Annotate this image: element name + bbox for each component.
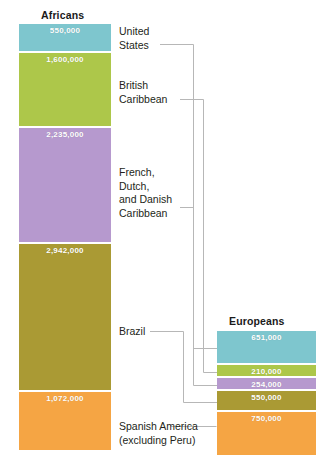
africans-band-french-caribbean: 2,235,000 <box>19 128 111 244</box>
destinations-of-africans-and-europeans-chart: Africans 550,000 1,600,000 2,235,000 2,9… <box>0 0 316 468</box>
africans-band-spanish-america: 1,072,000 <box>19 392 111 450</box>
africans-band-united-states: 550,000 <box>19 24 111 53</box>
africans-value-british-caribbean: 1,600,000 <box>19 55 111 64</box>
connector-french-caribbean <box>180 208 217 386</box>
europeans-value-brazil: 550,000 <box>217 393 316 402</box>
europeans-band-french-caribbean: 254,000 <box>217 378 316 391</box>
label-brazil: Brazil <box>119 325 145 339</box>
europeans-value-french-caribbean: 254,000 <box>217 380 316 389</box>
africans-column-title: Africans <box>41 9 84 21</box>
connector-brazil <box>150 332 217 403</box>
africans-value-united-states: 550,000 <box>19 26 111 35</box>
europeans-band-spanish-america: 750,000 <box>217 412 316 455</box>
europeans-value-spanish-america: 750,000 <box>217 414 316 423</box>
africans-value-french-caribbean: 2,235,000 <box>19 130 111 139</box>
connector-british-caribbean <box>180 100 217 373</box>
europeans-band-united-states: 651,000 <box>217 331 316 365</box>
label-spanish-america: Spanish America (excluding Peru) <box>119 420 198 447</box>
africans-stacked-bar: 550,000 1,600,000 2,235,000 2,942,000 1,… <box>19 24 111 450</box>
europeans-value-british-caribbean: 210,000 <box>217 367 316 376</box>
africans-band-brazil: 2,942,000 <box>19 244 111 392</box>
europeans-band-british-caribbean: 210,000 <box>217 365 316 378</box>
label-british-caribbean: British Caribbean <box>119 79 167 106</box>
europeans-stacked-bar: 651,000 210,000 254,000 550,000 750,000 <box>217 331 316 455</box>
label-united-states: United States <box>119 25 149 52</box>
africans-value-brazil: 2,942,000 <box>19 246 111 255</box>
europeans-column-title: Europeans <box>229 315 285 327</box>
europeans-band-brazil: 550,000 <box>217 391 316 412</box>
label-french-caribbean: French, Dutch, and Danish Caribbean <box>119 166 172 220</box>
africans-value-spanish-america: 1,072,000 <box>19 394 111 403</box>
africans-band-british-caribbean: 1,600,000 <box>19 53 111 128</box>
europeans-value-united-states: 651,000 <box>217 333 316 342</box>
